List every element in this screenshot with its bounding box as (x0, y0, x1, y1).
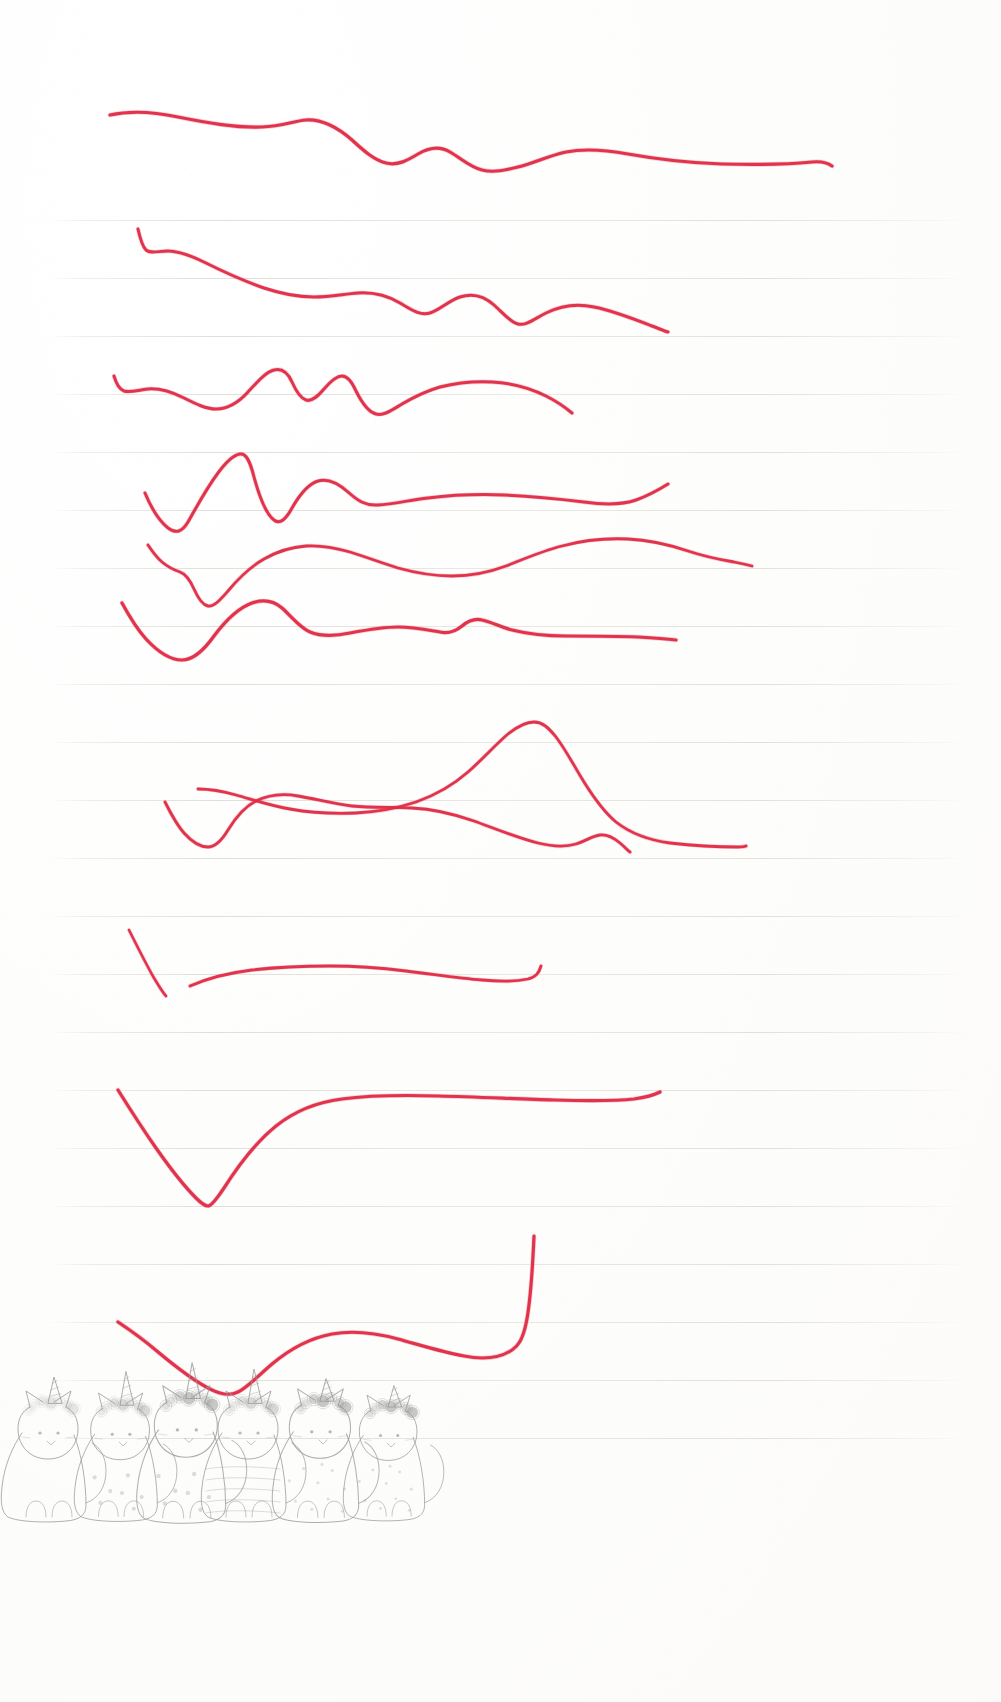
cat-striped (201, 1369, 306, 1522)
cat-plain (1, 1377, 106, 1522)
cat-dotted (272, 1379, 379, 1523)
scanned-page (0, 0, 1001, 1702)
pencil-cat-row (0, 0, 1001, 1702)
cat-spotted-2 (137, 1363, 247, 1524)
